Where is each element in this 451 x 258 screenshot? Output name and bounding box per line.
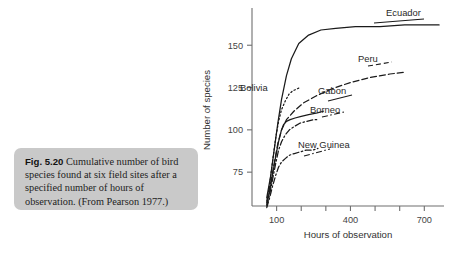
- figure-number-label: Fig. 5.20: [25, 156, 63, 167]
- series-label-new-guinea: New Guinea: [298, 139, 350, 150]
- y-tick-label-100: 100: [228, 125, 243, 135]
- y-axis-ticks: 75100125150: [228, 41, 252, 178]
- x-axis-title: Hours of observation: [304, 229, 393, 240]
- series-curve-gabon: [267, 111, 324, 204]
- leader-ecuador: [374, 19, 424, 23]
- x-tick-label-100: 100: [269, 215, 284, 225]
- y-tick-label-75: 75: [233, 167, 243, 177]
- series-label-peru: Peru: [358, 53, 378, 64]
- x-tick-label-700: 700: [417, 215, 432, 225]
- y-axis-title: Number of species: [201, 70, 212, 150]
- chart-series-group: [267, 25, 439, 208]
- series-label-ecuador: Ecuador: [386, 7, 421, 18]
- x-tick-label-400: 400: [343, 215, 358, 225]
- species-accumulation-chart: 75100125150 100400700 Number of species …: [196, 0, 451, 258]
- series-curve-ecuador: [267, 25, 439, 198]
- series-label-gabon: Gabon: [318, 85, 346, 96]
- figure-caption-box: Fig. 5.20 Cumulative number of bird spec…: [14, 148, 198, 210]
- series-label-bolivia: Bolivia: [240, 82, 268, 93]
- y-tick-label-150: 150: [228, 41, 243, 51]
- figure-page: Fig. 5.20 Cumulative number of bird spec…: [0, 0, 451, 258]
- figure-caption-text: Fig. 5.20 Cumulative number of bird spec…: [25, 155, 188, 208]
- series-label-borneo: Borneo: [310, 104, 340, 115]
- chart-figure: 75100125150 100400700 Number of species …: [196, 0, 451, 258]
- series-curve-new-guinea: [267, 148, 318, 207]
- x-axis-ticks: 100400700: [269, 206, 432, 225]
